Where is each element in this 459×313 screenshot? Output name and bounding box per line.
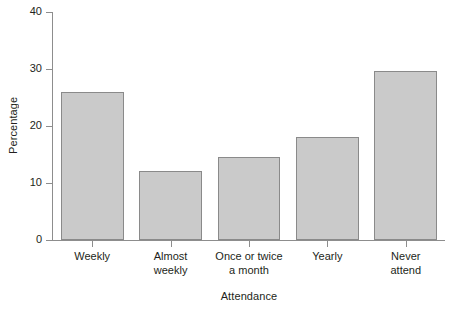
y-tick-mark [46,12,52,13]
y-tick-label: 20 [12,120,42,131]
y-tick-label: 0 [12,234,42,245]
y-tick-label-text: 10 [12,177,42,188]
x-tick-mark [327,241,328,247]
x-tick-label-line: Yearly [288,250,366,264]
x-tick-label-line: weekly [131,264,209,278]
y-tick-mark [46,183,52,184]
bar [61,92,124,240]
x-tick-label: Once or twicea month [210,250,288,277]
y-tick-label: 40 [12,6,42,17]
bar [296,137,359,240]
x-tick-label-line: Once or twice [210,250,288,264]
x-tick-mark [92,241,93,247]
y-tick-mark [46,69,52,70]
x-tick-label-line: Weekly [53,250,131,264]
x-tick-label-line: Never [367,250,445,264]
y-tick-label: 30 [12,63,42,74]
bar [139,171,202,240]
y-tick-label-text: 30 [12,63,42,74]
x-tick-mark [171,241,172,247]
x-tick-label: Almostweekly [131,250,209,277]
x-tick-mark [249,241,250,247]
y-tick-label: 10 [12,177,42,188]
x-tick-mark [406,241,407,247]
y-tick-label-text: 0 [12,234,42,245]
x-tick-label-line: Almost [131,250,209,264]
x-tick-label: Weekly [53,250,131,264]
bar-chart: Percentage 010203040 WeeklyAlmostweeklyO… [0,0,459,313]
x-tick-label: Yearly [288,250,366,264]
y-tick-mark [46,126,52,127]
x-tick-label: Neverattend [367,250,445,277]
plot-area [53,12,445,240]
y-tick-label-text: 20 [12,120,42,131]
bar [218,157,281,240]
bar [374,71,437,240]
x-tick-label-line: attend [367,264,445,278]
y-tick-label-text: 40 [12,6,42,17]
x-tick-label-line: a month [210,264,288,278]
x-axis-title: Attendance [53,290,445,302]
